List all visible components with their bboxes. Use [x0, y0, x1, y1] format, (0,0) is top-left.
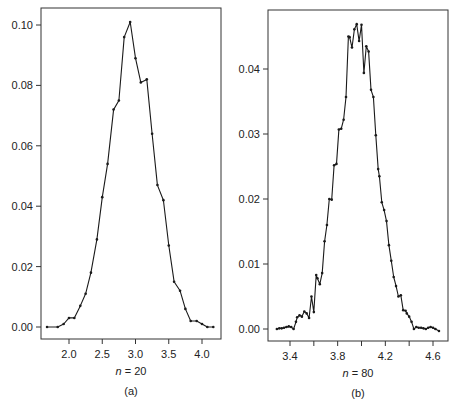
y-tick-label: 0.01 [239, 258, 260, 270]
data-point [353, 28, 356, 31]
data-point [438, 330, 441, 333]
data-point [388, 244, 391, 247]
data-point [295, 321, 298, 324]
data-point [129, 21, 132, 24]
data-point [420, 326, 423, 329]
data-point [422, 327, 425, 330]
data-point [212, 326, 215, 329]
data-point [380, 201, 383, 204]
data-point [195, 320, 198, 323]
data-point [383, 209, 386, 212]
data-point [146, 78, 149, 81]
data-point [206, 326, 209, 329]
data-point [342, 118, 345, 121]
data-point [283, 326, 286, 329]
data-point [355, 23, 358, 26]
x-tick-label: 2.5 [95, 348, 110, 360]
y-tick-label: 0.02 [239, 193, 260, 205]
data-point [390, 259, 393, 262]
data-point [280, 327, 283, 330]
data-point [410, 321, 413, 324]
y-tick-label: 0.08 [12, 79, 33, 91]
data-point [408, 315, 411, 318]
data-point [348, 36, 351, 39]
data-point [84, 292, 87, 295]
data-point [367, 50, 370, 53]
data-point [375, 134, 378, 137]
data-point [363, 72, 366, 75]
data-point [365, 45, 368, 48]
data-point [323, 240, 326, 243]
x-tick-label: 3.5 [161, 348, 176, 360]
data-point [184, 308, 187, 311]
data-point [427, 326, 430, 329]
data-point [162, 199, 165, 202]
data-point [413, 328, 416, 331]
plot-frame [268, 10, 448, 341]
data-point [333, 164, 336, 167]
figure: 0.000.020.040.060.080.102.02.53.03.54.0 … [0, 0, 452, 404]
data-point [62, 323, 65, 326]
n-label-b: n = 80 [343, 367, 374, 379]
data-point [301, 315, 304, 318]
data-point [285, 326, 288, 329]
data-point [415, 326, 418, 329]
y-tick-label: 0.04 [239, 63, 260, 75]
data-point [400, 294, 403, 297]
data-point [429, 326, 432, 329]
data-point [308, 317, 311, 320]
y-tick-label: 0.02 [12, 261, 33, 273]
x-tick-label: 3.4 [282, 350, 297, 362]
x-tick-label: 3.0 [128, 348, 143, 360]
data-point [290, 326, 293, 329]
data-point [328, 198, 331, 201]
chart-panel-a: 0.000.020.040.060.080.102.02.53.03.54.0 [12, 8, 221, 360]
data-point [316, 277, 319, 280]
data-point [434, 328, 437, 331]
plot-frame [41, 8, 221, 339]
data-point [315, 274, 318, 277]
data-point [335, 163, 338, 166]
data-point [351, 46, 354, 49]
data-point [106, 163, 109, 166]
data-point [405, 312, 408, 315]
data-point [397, 295, 400, 298]
data-line [47, 22, 213, 327]
data-point [173, 280, 176, 283]
chart-panel-b: 0.000.010.020.030.043.43.84.24.6 [239, 10, 448, 362]
data-point [404, 310, 407, 313]
y-tick-label: 0.04 [12, 200, 33, 212]
x-tick-label: 3.8 [330, 350, 345, 362]
data-point [118, 99, 121, 102]
data-point [278, 327, 281, 330]
x-tick-label: 2.0 [61, 348, 76, 360]
n-label-a: n = 20 [116, 365, 147, 377]
data-point [96, 238, 99, 241]
data-point [402, 309, 405, 312]
data-point [326, 224, 329, 227]
data-point [179, 289, 182, 292]
data-point [296, 316, 299, 319]
caption-a: (a) [124, 385, 137, 397]
data-point [321, 272, 324, 275]
data-point [73, 317, 76, 320]
data-point [134, 57, 137, 60]
data-point [370, 89, 373, 92]
x-tick-label: 4.6 [425, 350, 440, 362]
data-point [345, 96, 348, 99]
data-point [395, 285, 398, 288]
data-point [360, 24, 363, 27]
data-point [318, 283, 321, 286]
data-point [358, 40, 361, 43]
data-point [338, 128, 341, 131]
data-point [330, 198, 333, 201]
data-point [340, 128, 343, 131]
y-tick-label: 0.00 [239, 323, 260, 335]
data-point [68, 317, 71, 320]
y-tick-label: 0.10 [12, 19, 33, 31]
data-point [292, 328, 295, 331]
data-point [156, 184, 159, 187]
data-point [276, 328, 279, 331]
x-tick-label: 4.2 [378, 350, 393, 362]
data-point [123, 36, 126, 39]
